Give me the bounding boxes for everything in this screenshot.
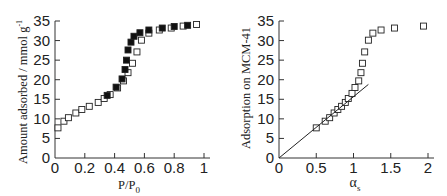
right-x-tick-label: 2 [424,159,432,176]
left-filled-square-marker [128,39,134,45]
left-open-square-marker [95,99,101,105]
left-chart-isotherm: 00.20.40.60.8105101520253035 [33,12,210,176]
right-open-square-marker [359,60,365,66]
right-open-square-marker [421,23,427,29]
left-filled-square-marker [137,30,143,36]
left-filled-square-marker [159,25,165,31]
left-y-tick-label: 20 [33,71,50,88]
right-y-tick-label: 25 [257,51,274,68]
right-x-tick-label: 1 [349,159,357,176]
left-y-tick-label: 15 [33,90,50,107]
left-x-tick-label: 1 [200,159,208,176]
right-x-tick-label: 1.5 [380,159,401,176]
left-x-tick-label: 0.4 [104,159,125,176]
right-open-square-marker [349,90,355,96]
right-y-tick-label: 10 [257,110,274,127]
right-open-square-marker [365,37,371,43]
left-filled-square-marker [185,22,191,28]
left-y-tick-label: 30 [33,32,50,49]
left-filled-square-marker [124,57,130,63]
right-y-tick-label: 15 [257,90,274,107]
right-open-square-marker [370,30,376,36]
right-x-tick-label: 0.5 [306,159,327,176]
right-y-tick-label: 0 [266,149,274,166]
left-open-square-marker [194,22,200,28]
left-filled-square-marker [119,76,125,82]
left-y-tick-label: 10 [33,110,50,127]
left-filled-square-marker [113,84,119,90]
right-open-square-marker [352,85,358,91]
left-filled-square-marker [131,33,137,39]
left-open-square-marker [86,103,92,109]
left-y-tick-label: 0 [42,149,50,166]
right-y-tick-label: 20 [257,71,274,88]
right-chart-alpha-s: 00.511.5205101520253035 [257,12,434,176]
left-filled-square-marker [104,92,110,98]
right-y-tick-label: 30 [257,32,274,49]
left-open-square-marker [134,49,140,55]
left-y-axis-label: Amount adsorbed / mmol g-1 [15,20,30,164]
left-x-tick-label: 0.6 [134,159,155,176]
right-open-square-marker [362,49,368,55]
left-filled-square-marker [122,67,128,73]
left-open-square-marker [138,37,144,43]
left-open-square-marker [79,106,85,112]
left-filled-square-marker [125,47,131,53]
left-open-square-marker [129,60,135,66]
right-open-square-marker [378,27,384,33]
left-y-tick-label: 35 [33,12,50,29]
left-x-tick-label: 0 [51,159,59,176]
left-y-tick-label: 25 [33,51,50,68]
right-y-tick-label: 35 [257,12,274,29]
right-y-tick-label: 5 [266,129,274,146]
left-y-tick-label: 5 [42,129,50,146]
right-y-axis-label: Adsorption on MCM-41 [239,27,253,149]
left-open-square-marker [55,125,61,131]
left-x-tick-label: 0.2 [74,159,95,176]
left-x-axis-label: P/P0 [118,178,140,195]
left-open-square-marker [65,115,71,121]
right-x-axis-label: αs [350,175,361,193]
left-open-square-marker [73,110,79,116]
right-open-square-marker [356,78,362,84]
left-filled-square-marker [171,23,177,29]
left-filled-square-marker [146,27,152,33]
chart-figure: 00.20.40.60.8105101520253035 00.511.5205… [0,0,447,196]
right-open-square-marker [391,25,397,31]
right-fit-line [279,84,368,158]
right-x-tick-label: 0 [275,159,283,176]
left-x-tick-label: 0.8 [164,159,185,176]
right-open-square-marker [358,70,364,76]
